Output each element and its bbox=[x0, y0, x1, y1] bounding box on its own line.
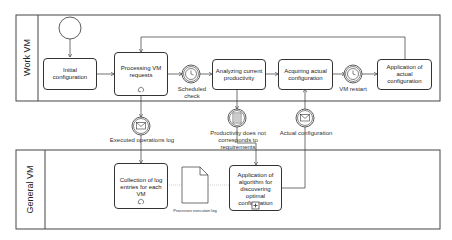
pool-label-work-vm: Work VM bbox=[22, 28, 33, 88]
task-processing-vm-requests[interactable]: Processing VM requests bbox=[114, 52, 168, 96]
task-label: Acquiring actual configuration bbox=[281, 68, 330, 82]
task-application-of-actual-configuration[interactable]: Application of actual configuration bbox=[377, 59, 432, 90]
task-label: Application of algorithm for discovering… bbox=[232, 172, 279, 207]
task-initial-configuration[interactable]: Initial configuration bbox=[43, 58, 97, 90]
start-event bbox=[59, 17, 81, 39]
timer-icon bbox=[344, 65, 362, 83]
artifact-label-processes-execution-log: Processes execution log bbox=[170, 207, 220, 214]
message-event-icon bbox=[296, 109, 314, 127]
timer-icon bbox=[182, 65, 200, 83]
task-label: Processing VM requests bbox=[117, 65, 165, 79]
pool-label-general-vm: General VM bbox=[25, 155, 36, 225]
task-analyzing-current-productivity[interactable]: Analyzing current productivity bbox=[212, 59, 266, 90]
message-event-icon bbox=[132, 117, 150, 135]
event-label-executed-operations-log: Executed operations log bbox=[106, 137, 178, 144]
subprocess-application-of-algorithm[interactable]: Application of algorithm for discovering… bbox=[229, 165, 282, 211]
task-label: Analyzing current productivity bbox=[215, 68, 263, 82]
task-acquiring-actual-configuration[interactable]: Acquiring actual configuration bbox=[278, 59, 333, 90]
task-label: Collection of log entries for each VM bbox=[117, 177, 165, 198]
conditional-event-icon bbox=[228, 109, 246, 127]
diagram-canvas bbox=[0, 0, 452, 240]
event-label-scheduled-check: Scheduled check bbox=[170, 86, 214, 100]
pool-general-vm bbox=[16, 150, 440, 229]
task-label: Initial configuration bbox=[46, 67, 94, 81]
document-icon bbox=[182, 167, 208, 203]
event-label-productivity: Productivity does not corresponds to req… bbox=[200, 130, 276, 151]
task-label: Application of actual configuration bbox=[380, 64, 429, 85]
task-collection-of-log-entries[interactable]: Collection of log entries for each VM bbox=[114, 163, 168, 209]
event-label-vm-restart: VM restart bbox=[333, 86, 373, 93]
event-label-actual-configuration: Actual configuration bbox=[276, 130, 336, 137]
